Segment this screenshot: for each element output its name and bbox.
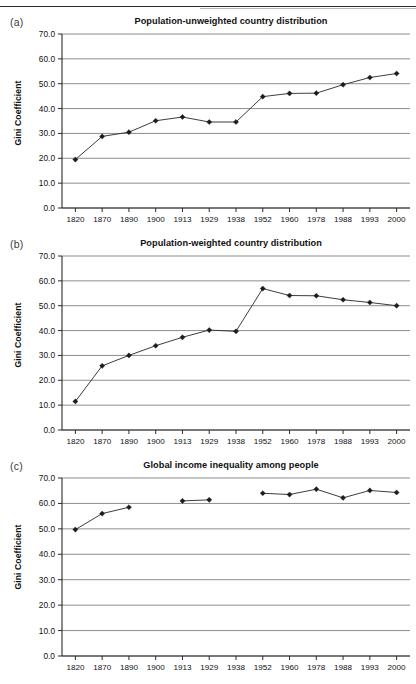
y-tick-label-60.0: 60.0 — [39, 54, 56, 64]
data-point-marker — [126, 353, 131, 358]
data-point-marker — [126, 130, 131, 135]
data-point-marker — [314, 293, 319, 298]
y-tick-label-30.0: 30.0 — [39, 575, 56, 585]
data-point-marker — [314, 487, 319, 492]
data-point-marker — [153, 118, 158, 123]
y-tick-label-70.0: 70.0 — [39, 474, 56, 483]
data-point-marker — [367, 300, 372, 305]
y-tick-label-10.0: 10.0 — [39, 626, 56, 636]
x-tick-label-1870: 1870 — [93, 663, 112, 672]
data-point-marker — [394, 71, 399, 76]
x-tick-label-2000: 2000 — [388, 663, 407, 672]
x-tick-label-1978: 1978 — [307, 437, 326, 446]
y-tick-label-60.0: 60.0 — [39, 498, 56, 508]
y-tick-label-30.0: 30.0 — [39, 128, 56, 138]
x-tick-label-1960: 1960 — [281, 437, 300, 446]
x-tick-label-1890: 1890 — [120, 663, 139, 672]
data-point-marker — [126, 505, 131, 510]
data-point-marker — [367, 75, 372, 80]
y-tick-label-10.0: 10.0 — [39, 178, 56, 188]
series-line-segment — [75, 507, 129, 529]
x-tick-label-1988: 1988 — [334, 215, 353, 224]
y-tick-label-40.0: 40.0 — [39, 549, 56, 559]
plot-area-c: 0.010.020.030.040.050.060.070.0182018701… — [0, 474, 416, 678]
x-tick-label-1952: 1952 — [254, 215, 273, 224]
chart-panel-b: (b) Population-weighted country distribu… — [0, 234, 416, 456]
x-tick-label-1988: 1988 — [334, 437, 353, 446]
data-point-marker — [207, 327, 212, 332]
data-point-marker — [314, 91, 319, 96]
series-line-segment — [182, 500, 209, 501]
y-tick-label-30.0: 30.0 — [39, 350, 56, 360]
page-header-rule-faint — [200, 8, 416, 9]
x-tick-label-1890: 1890 — [120, 215, 139, 224]
x-tick-label-1900: 1900 — [147, 437, 166, 446]
panel-letter-b: (b) — [10, 238, 23, 250]
x-tick-label-1870: 1870 — [93, 437, 112, 446]
y-tick-label-50.0: 50.0 — [39, 301, 56, 311]
y-tick-label-60.0: 60.0 — [39, 276, 56, 286]
data-point-marker — [340, 82, 345, 87]
data-point-marker — [260, 491, 265, 496]
x-tick-label-1929: 1929 — [200, 437, 219, 446]
data-point-marker — [367, 488, 372, 493]
x-tick-label-1938: 1938 — [227, 215, 246, 224]
x-tick-label-1960: 1960 — [281, 215, 300, 224]
x-tick-label-1900: 1900 — [147, 215, 166, 224]
x-tick-label-1938: 1938 — [227, 663, 246, 672]
y-tick-label-40.0: 40.0 — [39, 326, 56, 336]
data-point-marker — [207, 119, 212, 124]
x-tick-label-1960: 1960 — [281, 663, 300, 672]
chart-title-c: Global income inequality among people — [56, 460, 406, 470]
data-point-marker — [180, 335, 185, 340]
y-tick-label-50.0: 50.0 — [39, 79, 56, 89]
x-tick-label-2000: 2000 — [388, 437, 407, 446]
x-tick-label-1938: 1938 — [227, 437, 246, 446]
data-point-marker — [180, 114, 185, 119]
y-tick-label-10.0: 10.0 — [39, 400, 56, 410]
y-tick-label-50.0: 50.0 — [39, 524, 56, 534]
chart-title-b: Population-weighted country distribution — [56, 238, 406, 248]
data-point-marker — [394, 303, 399, 308]
x-tick-label-2000: 2000 — [388, 215, 407, 224]
y-tick-label-20.0: 20.0 — [39, 375, 56, 385]
line-chart-svg-c: 0.010.020.030.040.050.060.070.0182018701… — [0, 474, 416, 678]
data-point-marker — [260, 286, 265, 291]
x-tick-label-1870: 1870 — [93, 215, 112, 224]
data-point-marker — [394, 490, 399, 495]
y-tick-label-0.0: 0.0 — [43, 203, 55, 213]
x-tick-label-1993: 1993 — [361, 663, 380, 672]
y-tick-label-20.0: 20.0 — [39, 153, 56, 163]
data-point-marker — [73, 527, 78, 532]
x-tick-label-1913: 1913 — [173, 437, 192, 446]
x-tick-label-1820: 1820 — [66, 437, 85, 446]
y-tick-label-70.0: 70.0 — [39, 252, 56, 261]
line-chart-svg-b: 0.010.020.030.040.050.060.070.0182018701… — [0, 252, 416, 452]
x-tick-label-1900: 1900 — [147, 663, 166, 672]
x-tick-label-1993: 1993 — [361, 437, 380, 446]
y-tick-label-40.0: 40.0 — [39, 104, 56, 114]
data-point-marker — [340, 297, 345, 302]
x-tick-label-1952: 1952 — [254, 663, 273, 672]
data-point-marker — [207, 497, 212, 502]
data-point-marker — [340, 495, 345, 500]
chart-panel-c: (c) Global income inequality among peopl… — [0, 456, 416, 684]
x-tick-label-1952: 1952 — [254, 437, 273, 446]
x-tick-label-1913: 1913 — [173, 663, 192, 672]
data-point-marker — [287, 492, 292, 497]
panel-letter-c: (c) — [10, 460, 23, 472]
x-tick-label-1929: 1929 — [200, 215, 219, 224]
chart-title-a: Population-unweighted country distributi… — [56, 16, 406, 26]
x-tick-label-1988: 1988 — [334, 663, 353, 672]
plot-area-a: 0.010.020.030.040.050.060.070.0182018701… — [0, 30, 416, 230]
x-tick-label-1929: 1929 — [200, 663, 219, 672]
x-tick-label-1978: 1978 — [307, 663, 326, 672]
data-point-marker — [233, 329, 238, 334]
data-point-marker — [287, 293, 292, 298]
panel-letter-a: (a) — [10, 16, 23, 28]
plot-area-b: 0.010.020.030.040.050.060.070.0182018701… — [0, 252, 416, 452]
x-tick-label-1993: 1993 — [361, 215, 380, 224]
series-line-segment — [263, 489, 397, 498]
chart-panel-a: (a) Population-unweighted country distri… — [0, 12, 416, 234]
y-tick-label-0.0: 0.0 — [43, 651, 55, 661]
